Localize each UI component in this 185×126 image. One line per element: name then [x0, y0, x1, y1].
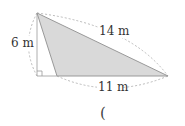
- triangle-diagram: 6 m 14 m 11 m (: [0, 0, 185, 126]
- base-label: 11 m: [98, 80, 129, 94]
- height-label: 6 m: [11, 36, 34, 50]
- side-label: 14 m: [99, 24, 130, 38]
- answer-parenthesis: (: [100, 104, 106, 122]
- right-angle-mark: [37, 71, 42, 76]
- triangle-shape: [37, 13, 168, 76]
